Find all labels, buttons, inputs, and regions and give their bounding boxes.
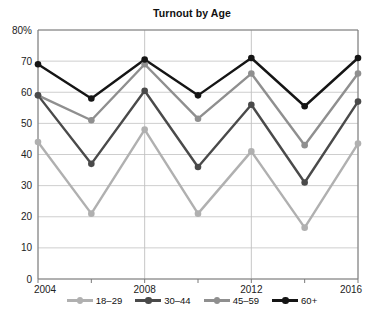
svg-text:40: 40 — [21, 149, 33, 160]
legend-swatch-icon — [135, 296, 161, 305]
legend-item[interactable]: 60+ — [272, 295, 317, 306]
y-axis-tick-labels: 01020304050607080% — [12, 25, 32, 285]
svg-text:2008: 2008 — [134, 284, 157, 295]
svg-text:2016: 2016 — [340, 284, 363, 295]
svg-text:80%: 80% — [12, 25, 32, 36]
chart-legend: 18–2930–4445–5960+ — [0, 295, 384, 306]
svg-text:10: 10 — [21, 242, 33, 253]
legend-item[interactable]: 18–29 — [67, 295, 122, 306]
legend-swatch-icon — [272, 296, 298, 305]
legend-item-label: 18–29 — [96, 295, 122, 306]
y-gridlines — [38, 30, 358, 279]
legend-swatch-icon — [67, 296, 93, 305]
svg-text:70: 70 — [21, 56, 33, 67]
legend-swatch-icon — [204, 296, 230, 305]
legend-item-label: 60+ — [301, 295, 317, 306]
legend-item-label: 30–44 — [164, 295, 190, 306]
svg-text:50: 50 — [21, 118, 33, 129]
svg-text:20: 20 — [21, 211, 33, 222]
chart-container: Turnout by Age 01020304050607080% 200420… — [0, 0, 384, 328]
svg-text:2004: 2004 — [34, 284, 57, 295]
svg-text:60: 60 — [21, 87, 33, 98]
svg-text:2012: 2012 — [240, 284, 263, 295]
legend-item[interactable]: 30–44 — [135, 295, 190, 306]
svg-text:0: 0 — [26, 274, 32, 285]
line-chart-plot: 01020304050607080% 2004200820122016 — [0, 0, 384, 295]
x-axis-tick-labels: 2004200820122016 — [34, 284, 363, 295]
legend-item-label: 45–59 — [233, 295, 259, 306]
series-lines — [38, 58, 358, 228]
x-axis-tick-marks — [38, 279, 358, 283]
legend-item[interactable]: 45–59 — [204, 295, 259, 306]
svg-text:30: 30 — [21, 180, 33, 191]
